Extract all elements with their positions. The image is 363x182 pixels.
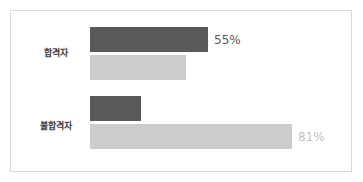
bar-row1-light[interactable]	[90, 124, 292, 149]
value-label-row0-dark: 55%	[214, 34, 241, 46]
bar-row1-dark[interactable]	[90, 96, 141, 121]
bar-row0-dark[interactable]	[90, 27, 208, 52]
chart-plot-area: 합격자 55% 불합격자 81%	[11, 11, 351, 171]
bar-row0-light[interactable]	[90, 55, 186, 80]
value-label-row1-light: 81%	[298, 131, 325, 143]
chart-frame: 합격자 55% 불합격자 81%	[10, 10, 352, 172]
category-label-0: 합격자	[23, 46, 89, 59]
category-label-1: 불합격자	[23, 119, 89, 132]
